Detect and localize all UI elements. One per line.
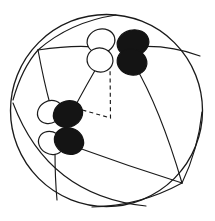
edge-bottom-right-to-right-rim bbox=[182, 112, 202, 183]
edge-lower-cluster-to-bottom-right-vertex bbox=[76, 147, 182, 183]
sphere-network-diagram bbox=[0, 0, 215, 221]
lower-lobe-cluster bbox=[33, 96, 88, 160]
edge-bottom-right-to-bottom-rim bbox=[92, 183, 182, 207]
figure-root bbox=[0, 0, 215, 221]
edge-topleft-to-lower-cluster bbox=[38, 50, 50, 104]
upper-lobe-cluster bbox=[84, 26, 151, 79]
edge-lower-cluster-to-bottom-rim bbox=[55, 152, 57, 200]
edge-upper-cluster-to-bottom-right-vertex bbox=[134, 64, 182, 183]
